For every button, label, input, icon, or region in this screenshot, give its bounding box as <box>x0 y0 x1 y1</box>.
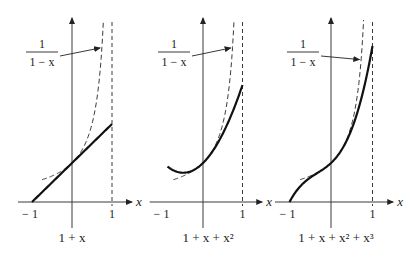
x-tick-label-one: 1 <box>240 207 246 221</box>
panel-quadratic: 1 1 − x − 1 1 x 1 + x + x² <box>150 18 273 245</box>
x-tick-label-minus-one: − 1 <box>154 207 170 221</box>
approximation-curve <box>167 85 242 173</box>
fraction-denominator: 1 − x <box>30 55 55 69</box>
x-tick-label-minus-one: − 1 <box>22 207 38 221</box>
fraction-denominator: 1 − x <box>162 55 187 69</box>
x-axis-label: x <box>135 194 142 209</box>
panel-caption: 1 + x + x² <box>182 230 233 245</box>
taylor-approximation-figure: 1 1 − x − 1 1 x 1 + x 1 1 − x − 1 1 x 1 … <box>0 0 418 255</box>
label-pointer-arrow <box>60 48 100 56</box>
fraction-numerator: 1 <box>171 37 177 51</box>
reference-curve-label: 1 1 − x <box>26 37 58 69</box>
reference-curve <box>173 20 234 180</box>
panel-caption: 1 + x <box>59 230 86 245</box>
label-pointer-arrow <box>192 48 231 56</box>
x-axis-label: x <box>265 194 272 209</box>
x-tick-label-minus-one: − 1 <box>280 207 296 221</box>
reference-curve-label: 1 1 − x <box>158 37 190 69</box>
fraction-numerator: 1 <box>39 37 45 51</box>
panel-cubic: 1 1 − x − 1 1 x 1 + x + x² + x³ <box>275 18 403 245</box>
reference-curve <box>300 20 364 180</box>
fraction-numerator: 1 <box>300 37 306 51</box>
panel-linear: 1 1 − x − 1 1 x 1 + x <box>18 18 142 245</box>
x-tick-label-one: 1 <box>370 207 376 221</box>
label-pointer-arrow <box>321 56 359 60</box>
panel-caption: 1 + x + x² + x³ <box>298 230 373 245</box>
reference-curve-label: 1 1 − x <box>287 37 319 69</box>
x-axis-label: x <box>396 194 403 209</box>
reference-curve <box>42 20 103 180</box>
fraction-denominator: 1 − x <box>291 55 316 69</box>
x-tick-label-one: 1 <box>109 207 115 221</box>
